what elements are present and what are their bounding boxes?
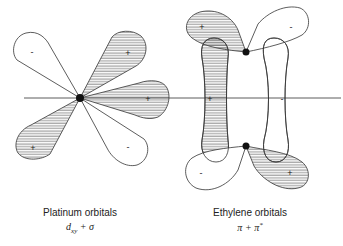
- bar-left: [202, 38, 229, 162]
- ethylene-formula: π + π*: [200, 221, 300, 233]
- svg-text:-: -: [200, 168, 203, 178]
- lobe-bottom-right: [246, 146, 308, 189]
- svg-text:+: +: [125, 48, 130, 58]
- platinum-formula: dxy + σ: [30, 221, 130, 235]
- lobe-top-right: [246, 7, 309, 52]
- dxy-subscript: xy: [71, 227, 77, 235]
- svg-text:+: +: [207, 94, 212, 104]
- lobe-bottom-left: [186, 146, 246, 190]
- platinum-atom: [76, 94, 84, 102]
- lobe-lower-left: [16, 98, 80, 159]
- lobe-upper-left: [14, 32, 80, 98]
- svg-text:+: +: [287, 168, 292, 178]
- svg-text:+: +: [199, 22, 204, 32]
- sigma-symbol: σ: [89, 221, 94, 232]
- svg-text:-: -: [127, 142, 130, 152]
- carbon-atom-top: [243, 49, 250, 56]
- svg-text:+: +: [30, 143, 35, 153]
- ethylene-caption: Ethylene orbitals: [200, 207, 300, 218]
- svg-text:+: +: [145, 94, 150, 104]
- star-superscript: *: [259, 221, 263, 229]
- plus-operator: +: [245, 222, 252, 233]
- svg-text:-: -: [281, 94, 284, 104]
- plus-operator: +: [80, 221, 87, 232]
- pi-symbol: π: [237, 222, 242, 233]
- platinum-caption: Platinum orbitals: [30, 207, 130, 218]
- svg-text:-: -: [290, 22, 293, 32]
- svg-text:-: -: [31, 47, 34, 57]
- carbon-atom-bottom: [243, 143, 250, 150]
